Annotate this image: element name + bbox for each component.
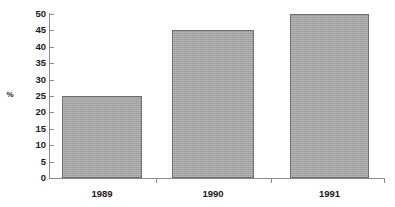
x-axis-category-label: 1991 — [295, 188, 365, 199]
y-axis-tick-mark — [49, 129, 54, 130]
bar — [172, 30, 254, 178]
y-axis-tick-mark — [49, 145, 54, 146]
y-axis-tick-mark — [49, 63, 54, 64]
x-axis-line — [49, 178, 385, 179]
y-axis-tick-mark — [49, 14, 54, 15]
y-axis-title: % — [2, 90, 18, 99]
x-axis-tick-mark — [156, 178, 157, 183]
x-axis-category-label: 1989 — [67, 188, 137, 199]
y-axis-tick-mark — [49, 112, 54, 113]
y-axis-tick-mark — [49, 47, 54, 48]
y-axis-tick-label: 10 — [24, 140, 46, 150]
y-axis-tick-label: 40 — [24, 42, 46, 52]
y-axis-tick-mark — [49, 162, 54, 163]
y-axis-tick-label: 20 — [24, 107, 46, 117]
y-axis-tick-mark — [49, 96, 54, 97]
y-axis-tick-label: 45 — [24, 25, 46, 35]
y-axis-tick-mark — [49, 178, 54, 179]
bar — [290, 14, 369, 178]
bar — [62, 96, 142, 178]
y-axis-tick-label: 0 — [24, 173, 46, 183]
y-axis-tick-mark — [49, 80, 54, 81]
x-axis-category-label: 1990 — [178, 188, 248, 199]
y-axis-tick-label: 35 — [24, 58, 46, 68]
bar-chart: % 05101520253035404550 198919901991 — [0, 0, 395, 207]
y-axis-tick-label: 25 — [24, 91, 46, 101]
y-axis-tick-mark — [49, 30, 54, 31]
x-axis-tick-mark — [271, 178, 272, 183]
y-axis-tick-label: 50 — [24, 9, 46, 19]
x-axis-tick-mark — [384, 178, 385, 183]
y-axis-tick-label: 15 — [24, 124, 46, 134]
y-axis-tick-label: 30 — [24, 75, 46, 85]
y-axis-tick-labels: 05101520253035404550 — [20, 0, 46, 207]
y-axis-tick-label: 5 — [24, 157, 46, 167]
